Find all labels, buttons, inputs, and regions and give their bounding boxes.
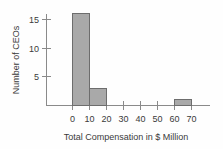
- x-tick-label: 30: [118, 114, 128, 124]
- histogram-bar: [175, 100, 192, 106]
- x-tick-label: 20: [101, 114, 111, 124]
- y-axis-title: Number of CEOs: [11, 25, 21, 94]
- histogram-bar: [73, 14, 90, 106]
- x-tick-label: 10: [84, 114, 94, 124]
- y-tick-label: 5: [34, 72, 39, 82]
- chart-canvas: 15 10 5 Number of CEOs 0 10 20 30 40 50 …: [0, 0, 223, 149]
- x-tick-label: 40: [135, 114, 145, 124]
- x-tick-label: 60: [169, 114, 179, 124]
- x-axis-title: Total Compensation in $ Million: [64, 132, 189, 142]
- y-tick-label: 10: [29, 44, 39, 54]
- x-tick-label: 50: [152, 114, 162, 124]
- x-tick-label: 70: [186, 114, 196, 124]
- histogram-chart: 15 10 5 Number of CEOs 0 10 20 30 40 50 …: [0, 0, 223, 149]
- histogram-bar: [90, 88, 107, 105]
- y-tick-label: 15: [29, 15, 39, 25]
- x-tick-label: 0: [70, 114, 75, 124]
- bars-group: [73, 14, 192, 106]
